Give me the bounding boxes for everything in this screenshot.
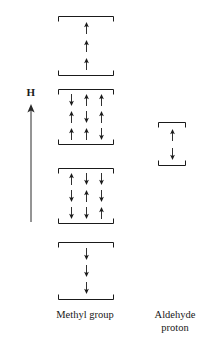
spin-arrow-cell: [64, 206, 79, 220]
spin-arrow-cell: [79, 39, 94, 53]
spin-arrow-cell: [64, 189, 79, 203]
spin-state-diagram: H Methyl group Aldehyde proton: [0, 0, 211, 356]
spin-arrow-cell: [79, 93, 94, 107]
spin-down-arrow-icon: [64, 189, 79, 203]
spin-arrow-cell: [94, 172, 109, 186]
spin-arrow-cell: [79, 21, 94, 35]
spin-row: [163, 144, 181, 163]
spin-down-arrow-icon: [94, 127, 109, 141]
spin-row: [63, 245, 109, 262]
spin-down-arrow-icon: [79, 247, 94, 261]
spin-down-arrow-icon: [79, 264, 94, 278]
spin-down-arrow-icon: [165, 147, 180, 161]
spin-up-arrow-icon: [79, 189, 94, 203]
spin-up-arrow-icon: [79, 57, 94, 71]
spin-row: [163, 125, 181, 144]
spin-arrow-cell: [79, 127, 94, 141]
caption-aldehyde-line1: Aldehyde: [140, 308, 210, 321]
spin-down-arrow-icon: [79, 206, 94, 220]
spin-arrow-cell: [94, 110, 109, 124]
spin-group: [58, 168, 114, 224]
spin-arrow-cell: [79, 110, 94, 124]
spin-arrow-cell: [64, 127, 79, 141]
spin-up-arrow-icon: [64, 172, 79, 186]
spin-arrow-cell: [79, 189, 94, 203]
spin-row: [63, 37, 109, 55]
caption-methyl-group: Methyl group: [24, 308, 146, 321]
spin-group: [58, 242, 114, 300]
spin-row: [63, 19, 109, 37]
spin-row: [63, 204, 109, 221]
spin-up-arrow-icon: [64, 127, 79, 141]
spin-rows: [58, 16, 114, 76]
spin-rows: [58, 242, 114, 300]
spin-group: [58, 16, 114, 76]
spin-down-arrow-icon: [94, 172, 109, 186]
spin-arrow-cell: [79, 172, 94, 186]
spin-row: [63, 125, 109, 142]
spin-up-arrow-icon: [94, 110, 109, 124]
spin-arrow-cell: [79, 247, 94, 261]
spin-rows: [58, 89, 114, 145]
spin-row: [63, 171, 109, 188]
field-axis-label: H: [14, 86, 48, 98]
spin-arrow-cell: [165, 128, 180, 142]
spin-arrow-cell: [94, 127, 109, 141]
spin-up-arrow-icon: [94, 206, 109, 220]
spin-rows: [58, 168, 114, 224]
caption-aldehyde-proton: Aldehyde proton: [140, 308, 210, 334]
spin-up-arrow-icon: [64, 110, 79, 124]
up-arrow-icon: [14, 86, 48, 226]
spin-up-arrow-icon: [165, 128, 180, 142]
spin-arrow-cell: [79, 281, 94, 295]
spin-rows: [158, 122, 186, 166]
spin-row: [63, 280, 109, 297]
spin-group: [58, 89, 114, 145]
caption-aldehyde-line2: proton: [140, 321, 210, 334]
spin-arrow-cell: [94, 93, 109, 107]
caption-methyl-text: Methyl group: [56, 309, 113, 320]
spin-group: [158, 122, 186, 166]
spin-up-arrow-icon: [79, 21, 94, 35]
spin-down-arrow-icon: [79, 110, 94, 124]
spin-row: [63, 92, 109, 109]
spin-row: [63, 109, 109, 126]
spin-arrow-cell: [79, 264, 94, 278]
spin-arrow-cell: [79, 57, 94, 71]
spin-up-arrow-icon: [79, 39, 94, 53]
spin-arrow-cell: [64, 93, 79, 107]
spin-arrow-cell: [79, 206, 94, 220]
spin-up-arrow-icon: [94, 93, 109, 107]
field-axis: H: [14, 86, 48, 226]
spin-arrow-cell: [94, 189, 109, 203]
spin-arrow-cell: [64, 172, 79, 186]
spin-down-arrow-icon: [94, 189, 109, 203]
spin-row: [63, 55, 109, 73]
spin-arrow-cell: [165, 147, 180, 161]
spin-row: [63, 262, 109, 279]
spin-down-arrow-icon: [79, 172, 94, 186]
spin-arrow-cell: [94, 206, 109, 220]
spin-down-arrow-icon: [79, 281, 94, 295]
spin-down-arrow-icon: [64, 206, 79, 220]
spin-up-arrow-icon: [79, 127, 94, 141]
spin-arrow-cell: [64, 110, 79, 124]
spin-row: [63, 188, 109, 205]
spin-down-arrow-icon: [64, 93, 79, 107]
spin-up-arrow-icon: [79, 93, 94, 107]
